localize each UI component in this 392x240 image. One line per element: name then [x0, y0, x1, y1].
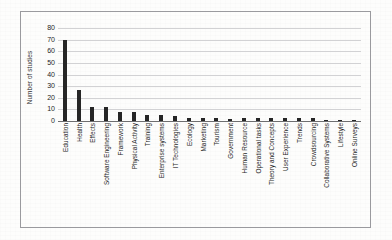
bar[interactable] [63, 40, 67, 121]
y-tick-label: 10 [47, 105, 55, 113]
bar-slot [86, 28, 100, 121]
x-axis-label: Lifestyle [337, 123, 344, 147]
bar-slot [278, 28, 292, 121]
x-axis-label: Physical Activity [130, 123, 137, 169]
y-tick-label: 20 [47, 94, 55, 102]
bar[interactable] [159, 115, 163, 121]
x-axis-label: Marketing [199, 123, 206, 152]
x-axis-label: Ecology [185, 123, 192, 146]
bar-slot [251, 28, 265, 121]
bar-slot [196, 28, 210, 121]
bar-slot [347, 28, 361, 121]
x-label-slot: Collaborative Systems [320, 123, 334, 223]
bar[interactable] [228, 119, 232, 121]
x-axis-label: Crowdsourcing [309, 123, 316, 166]
x-label-slot: Education [58, 123, 72, 223]
x-label-slot: IT Technologies [168, 123, 182, 223]
bar[interactable] [256, 118, 260, 121]
bar-slot [306, 28, 320, 121]
y-tick-label: 80 [47, 24, 55, 32]
x-label-slot: Enterprise systems [154, 123, 168, 223]
x-label-slot: Operational tasks [251, 123, 265, 223]
bar[interactable] [118, 112, 122, 121]
bar-slot [58, 28, 72, 121]
x-axis-label: Software Engineering [103, 123, 110, 185]
x-axis-label: Tourism [213, 123, 220, 146]
x-axis-label: Effects [89, 123, 96, 143]
x-label-slot: Ecology [182, 123, 196, 223]
x-axis-label: Education [61, 123, 68, 152]
y-axis-title-text: Number of studies [27, 50, 34, 104]
bar[interactable] [145, 115, 149, 121]
x-label-slot: Health [72, 123, 86, 223]
bar[interactable] [90, 107, 94, 121]
bar[interactable] [214, 118, 218, 121]
bar[interactable] [187, 118, 191, 121]
bar[interactable] [311, 118, 315, 121]
bar[interactable] [338, 120, 342, 121]
y-tick-label: 70 [47, 36, 55, 44]
bar[interactable] [132, 112, 136, 121]
x-axis-label: Trends [295, 123, 302, 143]
x-label-slot: Training [141, 123, 155, 223]
bar-slot [209, 28, 223, 121]
x-label-slot: Framework [113, 123, 127, 223]
y-tick-label: 0 [51, 117, 55, 125]
x-axis-label: Health [75, 123, 82, 142]
x-label-slot: Theory and Concepts [264, 123, 278, 223]
bar[interactable] [297, 118, 301, 121]
x-label-slot: Marketing [196, 123, 210, 223]
x-axis-label: User Experience [282, 123, 289, 171]
y-tick-label: 30 [47, 82, 55, 90]
bar[interactable] [283, 118, 287, 121]
x-label-slot: Tourism [209, 123, 223, 223]
y-tick-label: 50 [47, 59, 55, 67]
bar-series [58, 28, 361, 121]
bar-slot [99, 28, 113, 121]
bar-slot [333, 28, 347, 121]
x-label-slot: User Experience [278, 123, 292, 223]
bar[interactable] [242, 118, 246, 121]
bar[interactable] [173, 116, 177, 121]
x-axis-category-labels: EducationHealthEffectsSoftware Engineeri… [58, 123, 361, 223]
bar-slot [182, 28, 196, 121]
y-tick-label: 60 [47, 47, 55, 55]
x-axis-label: Human Resource [240, 123, 247, 173]
bar-slot [320, 28, 334, 121]
x-axis-label: Collaborative Systems [323, 123, 330, 188]
bar[interactable] [104, 107, 108, 121]
x-label-slot: Lifestyle [333, 123, 347, 223]
x-label-slot: Effects [86, 123, 100, 223]
x-label-slot: Online Surveys [347, 123, 361, 223]
bar-slot [168, 28, 182, 121]
x-axis-label: Government [227, 123, 234, 159]
x-label-slot: Physical Activity [127, 123, 141, 223]
bar-slot [127, 28, 141, 121]
x-label-slot: Crowdsourcing [306, 123, 320, 223]
y-tick-label: 40 [47, 71, 55, 79]
bar[interactable] [77, 90, 81, 121]
x-axis-label: Online Surveys [350, 123, 357, 167]
bar[interactable] [324, 120, 328, 121]
scanned-page-background: Number of studies 80706050403020100 Educ… [0, 0, 392, 240]
bar-slot [154, 28, 168, 121]
plot-area [58, 28, 361, 121]
bar[interactable] [269, 118, 273, 121]
y-axis-tick-labels: 80706050403020100 [36, 24, 56, 125]
x-axis-label: Framework [116, 123, 123, 155]
x-axis-label: Enterprise systems [158, 123, 165, 178]
y-axis-title: Number of studies [24, 34, 36, 120]
x-label-slot: Human Resource [237, 123, 251, 223]
x-axis-label: IT Technologies [172, 123, 179, 168]
x-axis-label: Operational tasks [254, 123, 261, 174]
bar-slot [264, 28, 278, 121]
bar[interactable] [201, 118, 205, 121]
x-axis-label: Theory and Concepts [268, 123, 275, 185]
bar-slot [72, 28, 86, 121]
bar-slot [223, 28, 237, 121]
bar-slot [141, 28, 155, 121]
axis-baseline [58, 121, 361, 122]
x-label-slot: Government [223, 123, 237, 223]
bar[interactable] [352, 120, 356, 121]
x-label-slot: Software Engineering [99, 123, 113, 223]
